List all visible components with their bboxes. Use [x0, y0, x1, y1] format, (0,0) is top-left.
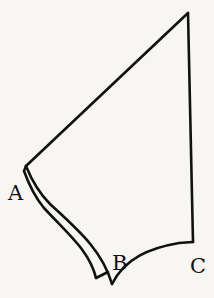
right-edge — [188, 13, 193, 242]
pattern-diagram — [0, 0, 214, 298]
strip-end — [96, 272, 108, 278]
diagonal-edge — [26, 13, 188, 166]
point-label-c: C — [190, 256, 206, 277]
point-label-a: A — [8, 183, 23, 204]
point-label-b: B — [112, 253, 127, 274]
inner-strip-curve — [26, 166, 112, 284]
